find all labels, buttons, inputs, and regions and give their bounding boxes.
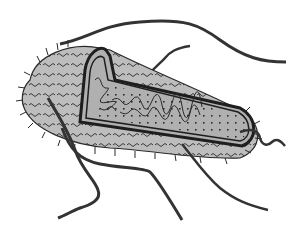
bacterium-illustration [0,0,289,233]
